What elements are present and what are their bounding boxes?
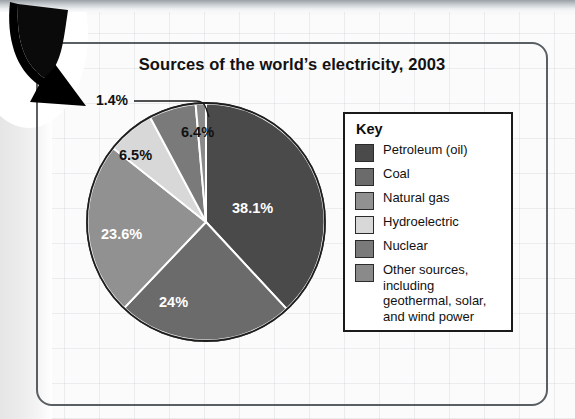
screenshot-root: Sources of the world’s electricity, 2003… [0, 0, 575, 419]
legend-item: Nuclear [355, 238, 502, 258]
legend-rows: Petroleum (oil)CoalNatural gasHydroelect… [355, 142, 502, 324]
slice-label-natural-gas: 23.6% [101, 226, 142, 242]
legend-item: Coal [355, 166, 502, 186]
slice-label-petroleum: 38.1% [232, 200, 273, 216]
legend-item-label: Hydroelectric [383, 214, 459, 230]
pie-chart: 38.1% 24% 23.6% 6.5% 6.4% [86, 102, 326, 342]
legend-box: Key Petroleum (oil)CoalNatural gasHydroe… [343, 112, 513, 332]
slice-label-hydroelectric: 6.5% [119, 147, 152, 163]
legend-swatch-icon [355, 168, 374, 186]
chart-title: Sources of the world’s electricity, 2003 [36, 55, 548, 74]
legend-swatch-icon [355, 240, 374, 258]
legend-item-label: Coal [383, 166, 410, 182]
legend-item-label: Petroleum (oil) [383, 142, 468, 158]
slice-callout-label-other: 1.4% [96, 92, 128, 108]
legend-swatch-icon [355, 216, 374, 234]
legend-item: Petroleum (oil) [355, 142, 502, 162]
page-top-shadow [0, 0, 575, 12]
slice-label-coal: 24% [159, 294, 188, 310]
legend-item-label: Natural gas [383, 190, 449, 206]
legend-title: Key [356, 121, 502, 137]
legend-item-label: Nuclear [383, 238, 428, 254]
slice-label-nuclear: 6.4% [181, 124, 214, 140]
legend-item: Hydroelectric [355, 214, 502, 234]
legend-item: Natural gas [355, 190, 502, 210]
legend-item-label: Other sources, including geothermal, sol… [383, 262, 502, 324]
legend-swatch-icon [355, 192, 374, 210]
legend-swatch-icon [355, 264, 374, 282]
legend-item: Other sources, including geothermal, sol… [355, 262, 502, 324]
legend-swatch-icon [355, 144, 374, 162]
